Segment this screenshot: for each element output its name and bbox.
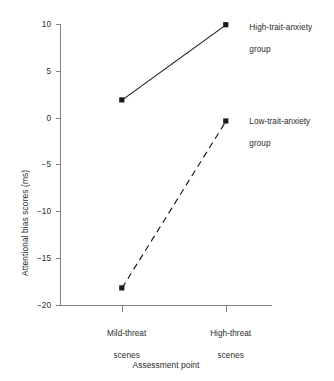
data-point-marker (119, 285, 124, 290)
y-tick-label: −20 (21, 301, 51, 312)
y-tick-marks (56, 25, 61, 306)
data-point-marker (223, 22, 228, 27)
x-tick-label-line: High-threat (210, 329, 251, 338)
series-annotation-line: group (249, 139, 270, 148)
series-annotation-high-trait-anxiety: High-trait-anxiety group (240, 11, 312, 66)
chart-figure: 10 5 0 −5 −10 −15 −20 Attentional bias s… (0, 0, 334, 381)
data-point-marker (119, 97, 124, 102)
y-tick-label: 5 (21, 67, 51, 78)
x-tick-label-line: Mild-threat (107, 329, 146, 338)
data-point-marker (223, 118, 228, 123)
x-axis-title: Assessment point (56, 360, 276, 371)
y-tick-label: 0 (21, 114, 51, 125)
y-tick-label: 10 (21, 20, 51, 31)
series-annotation-low-trait-anxiety: Low-trait-anxiety group (240, 105, 310, 160)
y-axis-title: Attentional bias scores (ms) (20, 170, 30, 276)
series-line-low-trait-anxiety (122, 121, 226, 288)
series-line-high-trait-anxiety (122, 25, 226, 100)
x-tick-label-line: scenes (218, 351, 244, 360)
x-tick-label-line: scenes (114, 351, 140, 360)
series-annotation-line: High-trait-anxiety (249, 23, 312, 32)
series-annotation-line: group (249, 45, 270, 54)
series-annotation-line: Low-trait-anxiety (249, 117, 310, 126)
x-tick-marks (123, 306, 227, 312)
